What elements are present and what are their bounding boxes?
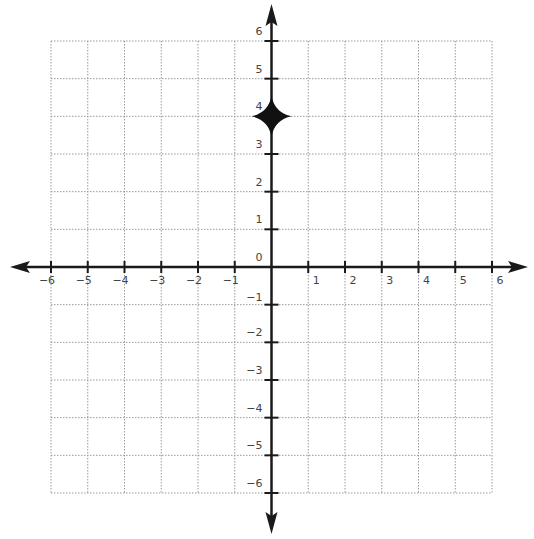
x-tick-label: 6: [497, 274, 504, 287]
x-tick-label: −1: [223, 274, 239, 287]
y-tick-label: 6: [256, 25, 263, 38]
y-tick-label: 0: [256, 251, 263, 264]
coordinate-plane: −6−5−4−3−2−1123456 −6−5−4−3−2−10123456: [0, 0, 534, 539]
y-tick-label: 3: [256, 138, 263, 151]
y-tick-label: 4: [256, 100, 263, 113]
x-tick-label: 3: [386, 274, 393, 287]
x-tick-label: −4: [112, 274, 128, 287]
y-tick-label: −3: [246, 364, 262, 377]
y-tick-label: 2: [256, 176, 263, 189]
y-tick-label: −5: [246, 439, 262, 452]
y-tick-label: −2: [246, 326, 262, 339]
y-tick-label: 1: [256, 213, 263, 226]
x-tick-label: 2: [350, 274, 357, 287]
x-tick-label: −2: [186, 274, 202, 287]
x-tick-label: 5: [460, 274, 467, 287]
y-tick-label: 5: [256, 63, 263, 76]
x-tick-label: −6: [39, 274, 55, 287]
x-tick-label: −5: [76, 274, 92, 287]
y-axis-labels: −6−5−4−3−2−10123456: [246, 25, 262, 490]
x-tick-label: −3: [149, 274, 165, 287]
y-tick-label: −6: [246, 477, 262, 490]
x-tick-label: 1: [313, 274, 320, 287]
y-tick-label: −1: [246, 291, 262, 304]
y-tick-label: −4: [246, 402, 262, 415]
x-tick-label: 4: [423, 274, 430, 287]
